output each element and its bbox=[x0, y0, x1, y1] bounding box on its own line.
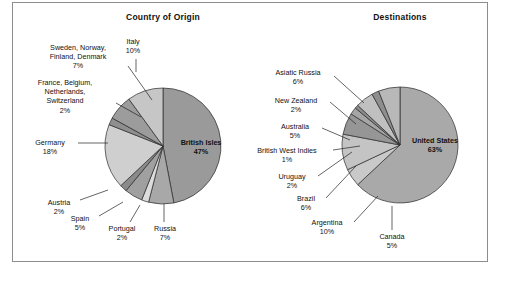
label-value: 5% bbox=[370, 241, 414, 250]
label-line: British Isles bbox=[172, 138, 230, 147]
label-line: British West Indies bbox=[242, 146, 332, 155]
slice-label-australia: Australia 5% bbox=[268, 122, 322, 140]
slice-label-portugal: Portugal 2% bbox=[100, 224, 144, 242]
label-line: Australia bbox=[268, 122, 322, 131]
slice-label-new-zealand: New Zealand 2% bbox=[262, 96, 330, 114]
label-value: 6% bbox=[286, 203, 326, 212]
label-line: Uruguay bbox=[266, 172, 318, 181]
label-line: Canada bbox=[370, 232, 414, 241]
slice-label-uruguay: Uruguay 2% bbox=[266, 172, 318, 190]
label-value: 2% bbox=[266, 181, 318, 190]
label-line: New Zealand bbox=[262, 96, 330, 105]
label-value: 63% bbox=[404, 145, 466, 154]
slice-label-spain: Spain 5% bbox=[62, 214, 98, 232]
label-line: France, Belgium, bbox=[16, 78, 114, 87]
slice-label-argentina: Argentina 10% bbox=[300, 218, 354, 236]
slice-label-italy: Italy 10% bbox=[113, 37, 153, 55]
label-value: 7% bbox=[28, 61, 128, 70]
slice-label-brazil: Brazil 6% bbox=[286, 194, 326, 212]
label-value: 18% bbox=[24, 147, 76, 156]
slice-label-russia: Russia 7% bbox=[146, 224, 184, 242]
chart-title-country-of-origin: Country of Origin bbox=[78, 12, 248, 22]
label-value: 5% bbox=[268, 131, 322, 140]
label-line: Asiatic Russia bbox=[262, 68, 334, 77]
slice-label-united-states: United States 63% bbox=[404, 136, 466, 154]
chart-title-destinations: Destinations bbox=[320, 12, 480, 22]
slice-label-germany: Germany 18% bbox=[24, 138, 76, 156]
slice-label-asiatic-russia: Asiatic Russia 6% bbox=[262, 68, 334, 86]
label-line: Netherlands, bbox=[16, 87, 114, 96]
label-line: Germany bbox=[24, 138, 76, 147]
label-line: Russia bbox=[146, 224, 184, 233]
slice-label-british-isles: British Isles 47% bbox=[172, 138, 230, 156]
label-value: 7% bbox=[146, 233, 184, 242]
figure-canvas: Country of Origin Destinations Sweden, N… bbox=[0, 0, 505, 283]
label-line: Argentina bbox=[300, 218, 354, 227]
slice-label-france-belgium-netherlands-switzerland: France, Belgium, Netherlands, Switzerlan… bbox=[16, 78, 114, 115]
slice-label-british-west-indies: British West Indies 1% bbox=[242, 146, 332, 164]
label-line: United States bbox=[404, 136, 466, 145]
label-value: 6% bbox=[262, 77, 334, 86]
slice-label-canada: Canada 5% bbox=[370, 232, 414, 250]
label-value: 47% bbox=[172, 147, 230, 156]
label-line: Austria bbox=[38, 198, 80, 207]
label-line: Brazil bbox=[286, 194, 326, 203]
label-value: 5% bbox=[62, 223, 98, 232]
label-value: 1% bbox=[242, 155, 332, 164]
label-value: 10% bbox=[300, 227, 354, 236]
label-line: Switzerland bbox=[16, 96, 114, 105]
label-value: 10% bbox=[113, 46, 153, 55]
label-value: 2% bbox=[262, 105, 330, 114]
label-line: Italy bbox=[113, 37, 153, 46]
label-line: Portugal bbox=[100, 224, 144, 233]
label-line: Spain bbox=[62, 214, 98, 223]
label-value: 2% bbox=[16, 106, 114, 115]
label-value: 2% bbox=[100, 233, 144, 242]
